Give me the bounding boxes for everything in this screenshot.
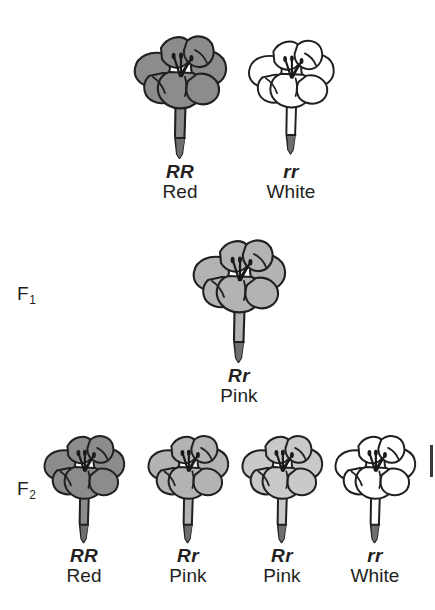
specimen-caption: RR Red [33,546,135,586]
specimen-caption: Rr Pink [137,546,239,586]
phenotype-label: Red [33,566,135,586]
specimen-parental-rr-red: RR Red [121,32,239,202]
specimen-f2-rr-white: rr White [324,432,426,586]
specimen-caption: RR Red [121,162,239,202]
petal-lower-right [89,469,118,496]
phenotype-label: Pink [180,386,298,406]
genetics-cross-diagram: RR Red [0,0,435,610]
specimen-caption: rr White [236,162,346,202]
specimen-caption: rr White [324,546,426,586]
genotype-label: Rr [231,546,333,566]
specimen-f1-rr-pink: Rr Pink [180,236,298,406]
petal-lower-right [287,469,316,496]
page-edge-mark [430,445,433,477]
specimen-f2-rr-pink-2: Rr Pink [231,432,333,586]
generation-label-letter: F [17,478,29,499]
genotype-label: rr [236,162,346,182]
genotype-label: RR [121,162,239,182]
genotype-label: Rr [180,366,298,386]
phenotype-label: Pink [137,566,239,586]
genotype-label: RR [33,546,135,566]
flower-illustration-white [240,32,342,160]
phenotype-label: White [324,566,426,586]
flower-illustration-pink [184,236,294,364]
flower-illustration-white [327,432,423,544]
flower-illustration-pink [140,432,236,544]
flower-illustration-red [36,432,132,544]
specimen-caption: Rr Pink [180,366,298,406]
petal-lower-right [380,469,409,496]
generation-label-f1: F1 [17,283,36,305]
flower-illustration-red [125,32,235,160]
generation-label-subscript: 1 [29,293,36,307]
flower-illustration-pink-light [234,432,330,544]
petal-lower-right [186,74,219,105]
petal-lower-right [297,75,327,103]
petal-lower-right [245,278,278,309]
generation-label-letter: F [17,283,29,304]
specimen-caption: Rr Pink [231,546,333,586]
phenotype-label: Red [121,182,239,202]
specimen-f2-rr-pink-1: Rr Pink [137,432,239,586]
petal-lower-right [193,469,222,496]
phenotype-label: Pink [231,566,333,586]
genotype-label: Rr [137,546,239,566]
phenotype-label: White [236,182,346,202]
genotype-label: rr [324,546,426,566]
specimen-f2-rr-red: RR Red [33,432,135,586]
specimen-parental-rr-white: rr White [236,32,346,202]
